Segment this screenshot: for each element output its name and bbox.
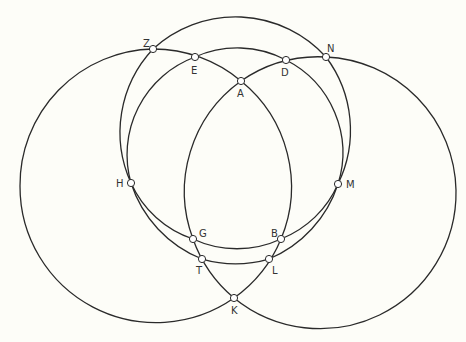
point-g-marker (189, 235, 196, 242)
point-m-marker (334, 180, 341, 187)
labeled-points: ZEADNHMGBTLK (116, 38, 355, 316)
point-b-marker (277, 235, 284, 242)
point-d-label: D (281, 67, 289, 78)
point-t-label: T (195, 265, 203, 276)
point-a-marker (237, 77, 244, 84)
point-z-label: Z (143, 38, 150, 49)
left-large-circle (20, 49, 291, 323)
point-d-marker (282, 56, 289, 63)
point-z-marker (149, 45, 156, 52)
point-l-label: L (272, 265, 278, 276)
inner-circle (127, 48, 343, 249)
point-l-marker (265, 255, 272, 262)
point-e-marker (191, 53, 198, 60)
point-a-label: A (237, 88, 244, 99)
point-b-label: B (271, 228, 278, 239)
point-n-marker (322, 53, 329, 60)
point-h-label: H (116, 178, 124, 189)
outer-top-circle (120, 17, 350, 264)
point-k-marker (230, 294, 237, 301)
right-large-circle (184, 57, 456, 329)
point-h-marker (127, 179, 134, 186)
geometry-diagram: ZEADNHMGBTLK (0, 0, 466, 342)
point-m-label: M (346, 179, 355, 190)
point-n-label: N (327, 43, 334, 54)
point-g-label: G (199, 228, 207, 239)
point-k-label: K (231, 305, 238, 316)
point-e-label: E (191, 65, 197, 76)
point-t-marker (198, 255, 205, 262)
